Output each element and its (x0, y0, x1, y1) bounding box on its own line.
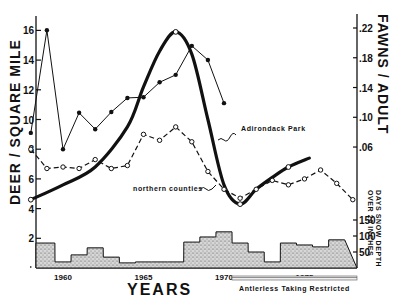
y-tick-label: 14 (23, 55, 35, 66)
deer-population-chart: 246810121416 .06.10.14.18.22 50100150 19… (0, 0, 398, 306)
svg-text:DAYS SNOW DEPTH: DAYS SNOW DEPTH (375, 190, 382, 267)
y-tick-label: 4 (28, 204, 34, 215)
left-axis: 246810121416 (23, 16, 41, 268)
svg-text:OVER 20 INCHES: OVER 20 INCHES (367, 190, 374, 256)
svg-text:northern counties: northern counties (133, 185, 203, 192)
y-right-axis-title: FAWNS / ADULT (375, 14, 391, 134)
antlerless-restriction-bar: Antlerless Taking Restricted (232, 276, 357, 293)
y-tick-label: 12 (23, 85, 35, 96)
y-tick-label: 2 (28, 233, 34, 244)
y-right-tick-label: .10 (359, 112, 373, 123)
snow-axis-title: DAYS SNOW DEPTH OVER 20 INCHES (367, 190, 382, 267)
fawns-per-adult-line (31, 30, 224, 149)
adirondack-park-label: Adirondack Park (218, 125, 306, 141)
x-tick-label: 1970 (215, 273, 233, 282)
svg-text:Adirondack Park: Adirondack Park (241, 125, 306, 132)
fawns-per-adult-points (29, 28, 227, 151)
y-tick-label: 6 (28, 174, 34, 185)
y-right-tick-label: .18 (359, 53, 373, 64)
snow-depth-bars (36, 232, 357, 268)
y-axis-title: DEER / SQUARE MILE (7, 39, 23, 205)
y-right-tick-label: .06 (359, 142, 373, 153)
northern-counties-label: northern counties (133, 185, 216, 192)
x-tick-label: 1960 (54, 273, 72, 282)
adirondack-park-line (31, 32, 310, 204)
y-tick-label: 16 (23, 25, 35, 36)
adirondack-park-points (28, 29, 290, 206)
svg-text:Antlerless Taking Restricted: Antlerless Taking Restricted (239, 285, 350, 293)
y-right-tick-label: .14 (359, 83, 373, 94)
x-axis-title: YEARS (127, 281, 192, 298)
y-right-tick-label: .22 (359, 23, 373, 34)
